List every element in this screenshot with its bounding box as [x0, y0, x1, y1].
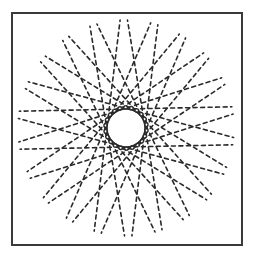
dashed-starburst-pattern [0, 0, 254, 254]
dashed-line [143, 120, 189, 216]
dashed-line [45, 56, 136, 112]
dashed-line [94, 126, 107, 232]
dashed-line-group [18, 20, 233, 236]
dashed-line [116, 144, 207, 200]
